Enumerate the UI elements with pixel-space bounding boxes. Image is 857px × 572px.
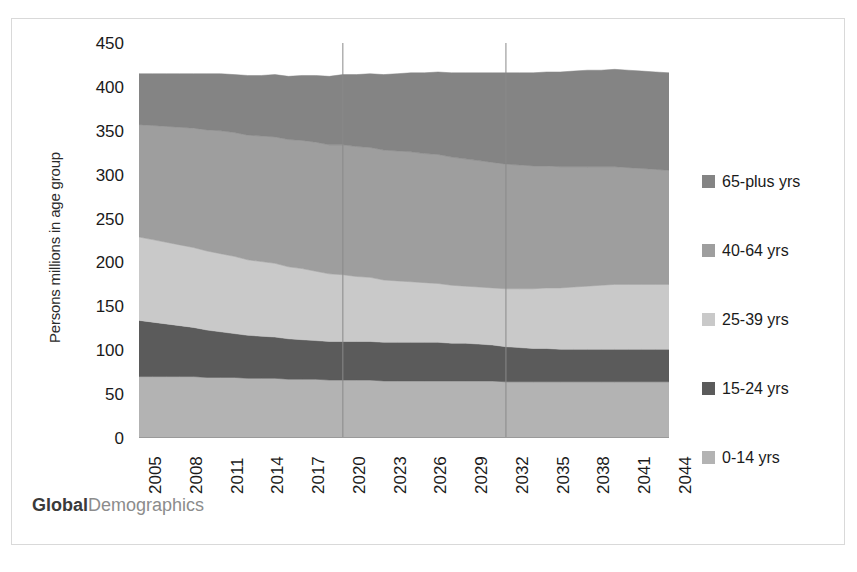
watermark-bold: Global: [32, 495, 88, 515]
legend-item-label: 15-24 yrs: [722, 380, 789, 398]
x-tick-2017: 2017: [310, 456, 327, 494]
y-tick-300: 300: [62, 167, 124, 184]
y-tick-350: 350: [62, 123, 124, 140]
legend-item-40-64-yrs[interactable]: 40-64 yrs: [702, 216, 852, 285]
x-tick-2005: 2005: [147, 456, 164, 494]
watermark-light: Demographics: [88, 495, 204, 515]
x-tick-2011: 2011: [229, 457, 246, 494]
y-tick-150: 150: [62, 298, 124, 315]
x-tick-2023: 2023: [392, 456, 409, 494]
plot-svg: [139, 43, 669, 438]
legend-swatch-icon: [702, 175, 715, 188]
x-tick-2014: 2014: [269, 456, 286, 494]
area-series-0-14-yrs: [139, 377, 669, 438]
y-tick-0: 0: [62, 430, 124, 447]
y-tick-100: 100: [62, 342, 124, 359]
y-tick-200: 200: [62, 254, 124, 271]
x-tick-2008: 2008: [188, 456, 205, 494]
legend-item-15-24-yrs[interactable]: 15-24 yrs: [702, 354, 852, 423]
x-tick-2032: 2032: [514, 456, 531, 494]
y-tick-400: 400: [62, 79, 124, 96]
legend-swatch-icon: [702, 244, 715, 257]
x-tick-2044: 2044: [677, 456, 694, 494]
x-tick-2020: 2020: [351, 456, 368, 494]
legend-item-label: 65-plus yrs: [722, 173, 800, 191]
legend-item-0-14-yrs[interactable]: 0-14 yrs: [702, 423, 852, 492]
legend-item-65-plus-yrs[interactable]: 65-plus yrs: [702, 147, 852, 216]
legend-item-label: 40-64 yrs: [722, 242, 789, 260]
y-tick-250: 250: [62, 211, 124, 228]
legend-item-label: 25-39 yrs: [722, 311, 789, 329]
y-tick-450: 450: [62, 35, 124, 52]
legend-item-25-39-yrs[interactable]: 25-39 yrs: [702, 285, 852, 354]
y-axis-title: Persons millions in age group: [46, 68, 63, 428]
x-tick-2035: 2035: [555, 456, 572, 494]
x-tick-2029: 2029: [473, 456, 490, 494]
legend-swatch-icon: [702, 313, 715, 326]
legend-swatch-icon: [702, 451, 715, 464]
stacked-area-plot: [139, 43, 669, 438]
legend-swatch-icon: [702, 382, 715, 395]
x-tick-2038: 2038: [595, 456, 612, 494]
chart-legend: 65-plus yrs40-64 yrs25-39 yrs15-24 yrs0-…: [702, 147, 852, 492]
x-tick-2041: 2041: [636, 456, 653, 494]
chart-frame: Persons millions in age group 4504003503…: [11, 18, 845, 545]
y-tick-50: 50: [62, 386, 124, 403]
x-tick-2026: 2026: [432, 456, 449, 494]
legend-item-label: 0-14 yrs: [722, 449, 780, 467]
watermark: GlobalDemographics: [32, 495, 204, 516]
